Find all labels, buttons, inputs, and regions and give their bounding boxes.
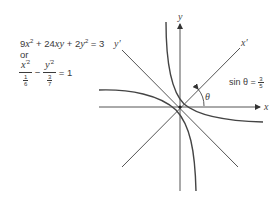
hyperbola-branch-lower-left <box>99 90 196 191</box>
frac-den: 5 <box>258 83 263 89</box>
fraction-3-5: 3 5 <box>258 76 263 89</box>
y-axis-label: y <box>178 11 182 22</box>
theta-label: θ <box>205 91 210 102</box>
hyperbola-diagram <box>0 0 280 197</box>
y-prime-axis-label: y′ <box>114 38 121 49</box>
x-prime-axis-label: x′ <box>241 37 248 48</box>
x-axis-label: x <box>264 101 268 112</box>
sin-theta-annotation: sin θ = 3 5 <box>229 76 264 89</box>
theta-arc <box>198 89 204 106</box>
origin-point <box>178 105 181 108</box>
frac-num: 3 <box>258 76 263 83</box>
sin-theta-text: sin θ = <box>229 77 256 87</box>
